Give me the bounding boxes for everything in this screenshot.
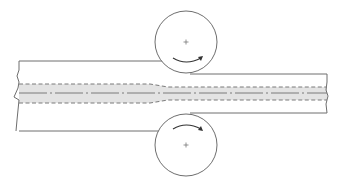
left-break-line [14,61,19,131]
top-roll [155,11,217,73]
rolling-mill-diagram [0,0,340,186]
bottom-roll [155,114,217,176]
